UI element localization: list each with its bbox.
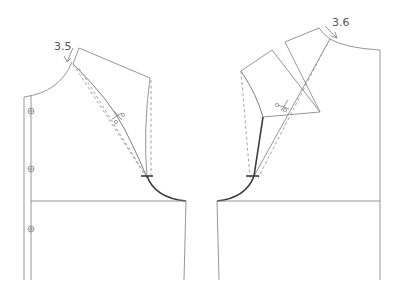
dashed-guide-2 <box>79 68 146 176</box>
armhole-curve-left <box>147 176 186 201</box>
lower-panel-outline <box>241 50 320 117</box>
button-mark-2 <box>28 166 34 172</box>
scissors-icon <box>275 100 289 112</box>
neckline-curve <box>24 62 72 97</box>
button-mark-1 <box>28 108 34 114</box>
back-neckline <box>330 39 380 50</box>
side-seam-right <box>217 201 219 280</box>
pattern-diagram: 3.5 <box>0 0 399 297</box>
dashed-guide-5 <box>241 71 250 178</box>
shoulder-panel-top-edge <box>73 48 79 64</box>
upper-panel-side <box>285 42 320 112</box>
upper-panel-top <box>285 28 330 42</box>
armhole-curve-right <box>217 176 254 201</box>
left-bodice-piece: 3.5 <box>24 40 186 280</box>
dashed-guide-4 <box>258 44 327 178</box>
right-bodice-piece: 3.6 <box>217 16 380 280</box>
shoulder-panel-outline <box>79 48 150 178</box>
side-seam-left <box>184 201 186 280</box>
button-mark-3 <box>28 226 34 232</box>
dashed-guide-1 <box>73 64 143 172</box>
measurement-label-left: 3.5 <box>54 40 72 53</box>
measurement-label-right: 3.6 <box>332 16 350 29</box>
